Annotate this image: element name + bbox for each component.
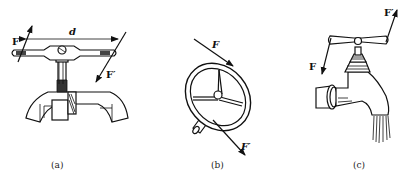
label-F-prime-c: F′ [384,7,394,18]
wheel-illustration [172,50,264,144]
force-arrow-F [322,38,331,74]
panel-a-tap-wrench: d F F′ (a) [12,26,128,170]
label-d: d [69,26,76,37]
faucet-t-handle [329,36,389,45]
caption-c: (c) [353,160,365,170]
faucet-bonnet [345,47,370,72]
label-F-prime-a: F′ [106,69,116,80]
dimension-d: d [26,26,118,39]
panel-c-faucet: F F′ (c) [309,7,397,170]
label-F-c: F [309,61,316,72]
workpiece-illustration [26,92,128,122]
faucet-body [336,72,389,115]
wrench-handle [12,46,116,60]
panel-b-handwheel: F F′ (b) [172,39,264,170]
caption-b: (b) [211,160,224,170]
label-F-prime-b: F′ [240,141,251,152]
pipe-illustration [316,85,338,109]
label-F-a: F [12,36,19,47]
water-stream [373,116,390,143]
figure-canvas: d F F′ (a) F F′ (b) [0,0,410,185]
caption-a: (a) [51,160,63,170]
label-F-b: F [211,39,220,50]
